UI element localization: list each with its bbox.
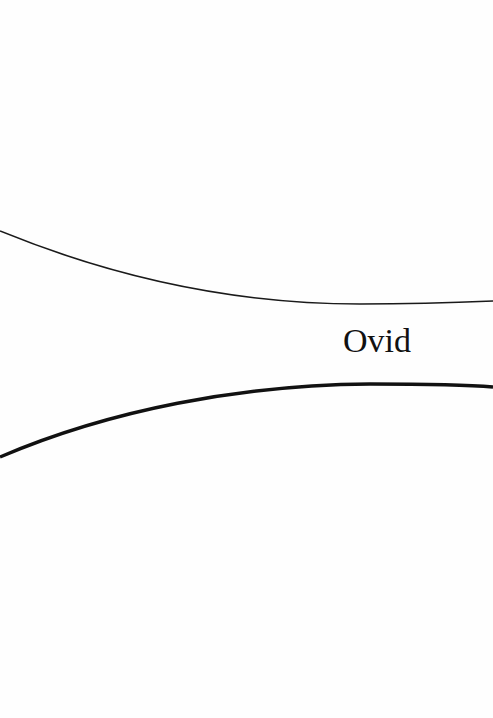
book-cover: Ovid bbox=[0, 0, 493, 718]
decorative-curves bbox=[0, 0, 493, 718]
upper-curve bbox=[0, 231, 493, 304]
lower-curve bbox=[0, 384, 493, 457]
author-name: Ovid bbox=[343, 321, 411, 361]
